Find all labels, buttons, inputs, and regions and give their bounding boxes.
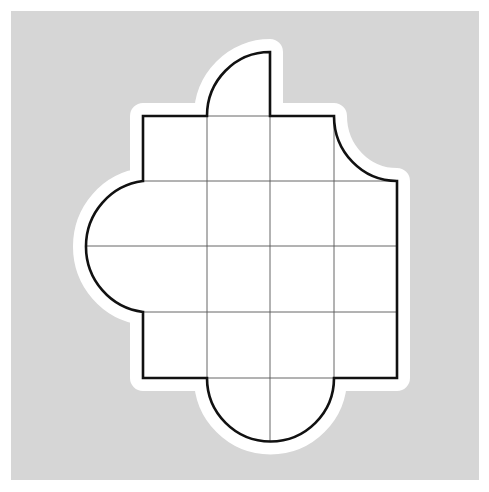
grid-shape-diagram <box>0 0 489 492</box>
